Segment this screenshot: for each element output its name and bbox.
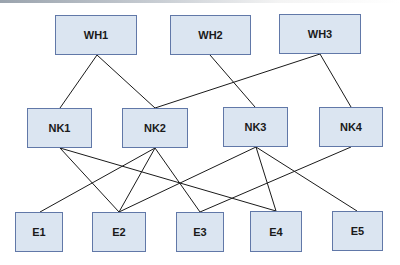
node-nk4: NK4	[319, 107, 383, 147]
node-label: E2	[112, 226, 125, 238]
node-label: E5	[351, 225, 364, 237]
node-e1: E1	[15, 212, 63, 252]
node-wh3: WH3	[279, 14, 361, 54]
node-wh2: WH2	[170, 15, 251, 55]
node-label: WH2	[198, 29, 222, 41]
node-nk3: NK3	[223, 107, 288, 147]
node-label: NK2	[144, 122, 166, 134]
node-label: NK4	[340, 121, 362, 133]
node-label: WH1	[84, 29, 108, 41]
node-wh1: WH1	[55, 15, 137, 55]
node-e5: E5	[332, 211, 383, 251]
node-label: E4	[269, 226, 282, 238]
edge-nk3-e5	[256, 147, 357, 211]
node-e2: E2	[92, 212, 146, 252]
node-label: E1	[32, 226, 45, 238]
node-label: WH3	[308, 28, 332, 40]
node-e3: E3	[176, 212, 224, 252]
edge-wh2-nk3	[210, 55, 255, 107]
node-label: E3	[193, 226, 206, 238]
edge-nk1-e4	[60, 148, 276, 211]
edge-wh3-nk4	[320, 54, 351, 107]
node-label: NK1	[48, 122, 70, 134]
node-nk2: NK2	[122, 108, 188, 148]
node-e4: E4	[250, 211, 302, 252]
edge-wh1-nk1	[60, 55, 97, 108]
edge-nk3-e4	[256, 147, 276, 211]
edge-wh3-nk2	[155, 54, 320, 108]
edge-nk2-e1	[40, 148, 155, 212]
edge-nk1-e2	[60, 148, 119, 212]
edge-wh1-nk2	[97, 55, 155, 108]
edge-nk4-e3	[200, 147, 351, 212]
node-nk1: NK1	[27, 108, 92, 148]
node-label: NK3	[244, 121, 266, 133]
edge-nk2-e3	[155, 148, 200, 212]
